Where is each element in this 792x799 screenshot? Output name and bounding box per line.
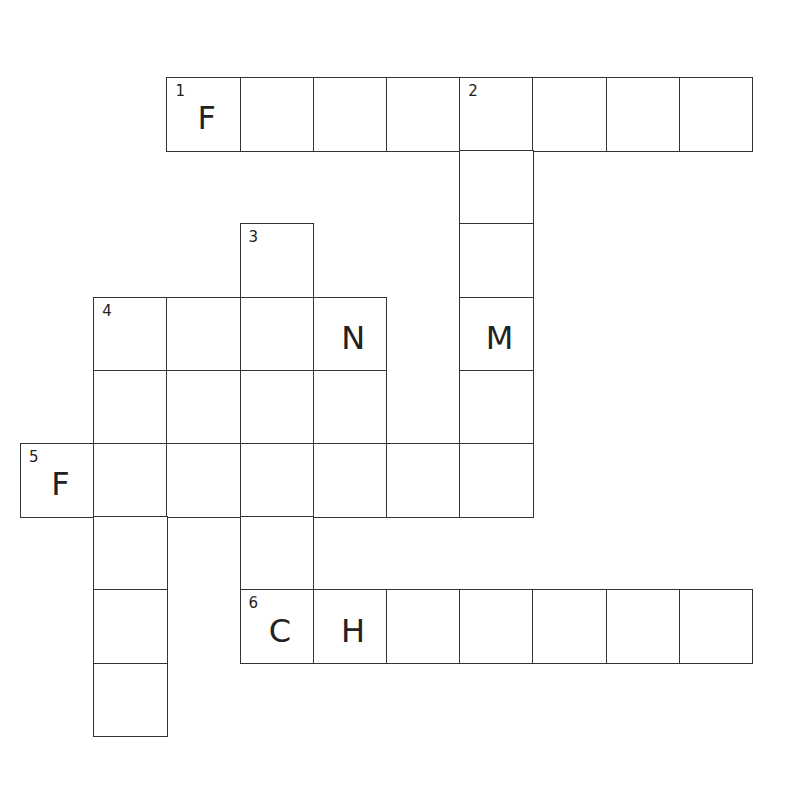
crossword-cell[interactable]: [313, 370, 388, 445]
crossword-cell[interactable]: [313, 77, 388, 152]
crossword-cell[interactable]: [459, 150, 534, 225]
cell-letter: [607, 78, 680, 151]
cell-letter: F: [21, 444, 94, 517]
cell-letter: [460, 371, 533, 444]
cell-letter: [94, 517, 167, 590]
crossword-cell[interactable]: N: [313, 297, 388, 372]
crossword-cell[interactable]: [240, 516, 315, 591]
cell-letter: [94, 590, 167, 663]
cell-letter: [680, 590, 753, 663]
crossword-cell[interactable]: [532, 589, 607, 664]
crossword-cell[interactable]: [459, 370, 534, 445]
crossword-cell[interactable]: [679, 77, 754, 152]
cell-letter: [94, 298, 167, 371]
crossword-cell[interactable]: 6C: [240, 589, 315, 664]
cell-letter: [314, 78, 387, 151]
cell-letter: [241, 224, 314, 297]
cell-letter: [533, 78, 606, 151]
cell-letter: C: [241, 590, 314, 663]
cell-letter: [241, 78, 314, 151]
cell-letter: [460, 590, 533, 663]
cell-letter: [387, 78, 460, 151]
cell-letter: F: [167, 78, 240, 151]
cell-letter: [460, 78, 533, 151]
crossword-cell[interactable]: 5F: [20, 443, 95, 518]
cell-letter: [167, 444, 240, 517]
crossword-cell[interactable]: 4: [93, 297, 168, 372]
cell-letter: [94, 444, 167, 517]
crossword-cell[interactable]: H: [313, 589, 388, 664]
crossword-cell[interactable]: 3: [240, 223, 315, 298]
crossword-cell[interactable]: [240, 443, 315, 518]
crossword-cell[interactable]: [93, 516, 168, 591]
cell-letter: [167, 371, 240, 444]
crossword-cell[interactable]: [166, 297, 241, 372]
crossword-cell[interactable]: [459, 223, 534, 298]
cell-letter: [607, 590, 680, 663]
crossword-cell[interactable]: [240, 370, 315, 445]
cell-letter: [460, 444, 533, 517]
crossword-cell[interactable]: [386, 443, 461, 518]
cell-letter: [460, 151, 533, 224]
cell-letter: [241, 444, 314, 517]
cell-letter: [387, 590, 460, 663]
crossword-cell[interactable]: 2: [459, 77, 534, 152]
cell-letter: [241, 298, 314, 371]
crossword-cell[interactable]: [459, 443, 534, 518]
cell-letter: N: [314, 298, 387, 371]
crossword-grid: 1F234NM5F6CH: [0, 0, 792, 799]
crossword-cell[interactable]: [240, 77, 315, 152]
crossword-cell[interactable]: [679, 589, 754, 664]
crossword-cell[interactable]: [240, 297, 315, 372]
crossword-cell[interactable]: [93, 589, 168, 664]
cell-letter: M: [460, 298, 533, 371]
crossword-cell[interactable]: 1F: [166, 77, 241, 152]
crossword-cell[interactable]: [606, 77, 681, 152]
cell-letter: [167, 298, 240, 371]
cell-letter: [533, 590, 606, 663]
crossword-cell[interactable]: [93, 443, 168, 518]
cell-letter: [241, 371, 314, 444]
crossword-cell[interactable]: [386, 77, 461, 152]
cell-letter: [94, 371, 167, 444]
cell-letter: [680, 78, 753, 151]
crossword-cell[interactable]: [532, 77, 607, 152]
cell-letter: [314, 371, 387, 444]
crossword-cell[interactable]: [93, 370, 168, 445]
crossword-cell[interactable]: [459, 589, 534, 664]
cell-letter: [314, 444, 387, 517]
cell-letter: H: [314, 590, 387, 663]
crossword-cell[interactable]: M: [459, 297, 534, 372]
cell-letter: [241, 517, 314, 590]
crossword-cell[interactable]: [386, 589, 461, 664]
cell-letter: [387, 444, 460, 517]
crossword-cell[interactable]: [313, 443, 388, 518]
cell-letter: [94, 664, 167, 737]
crossword-cell[interactable]: [166, 370, 241, 445]
crossword-cell[interactable]: [166, 443, 241, 518]
crossword-cell[interactable]: [93, 663, 168, 738]
cell-letter: [460, 224, 533, 297]
crossword-cell[interactable]: [606, 589, 681, 664]
